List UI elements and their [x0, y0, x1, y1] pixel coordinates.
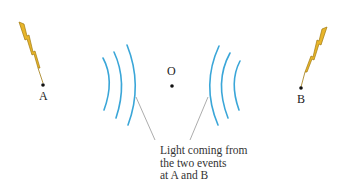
- observer-point: [170, 84, 174, 88]
- caption-line-3: at A and B: [160, 169, 248, 182]
- caption-line-1: Light coming from: [160, 144, 248, 157]
- wavefronts-from-b: [210, 46, 240, 125]
- event-a-label: A: [39, 90, 48, 102]
- event-a-point: [41, 83, 45, 87]
- observer-label: O: [167, 65, 176, 77]
- caption: Light coming fromthe two eventsat A and …: [160, 144, 248, 182]
- leader-line-left: [136, 97, 155, 140]
- event-b-point: [299, 86, 303, 90]
- figure-light-from-two-events: A B O Light coming fromthe two eventsat …: [0, 0, 341, 186]
- wavefronts-from-a: [103, 45, 135, 125]
- leader-line-right: [190, 97, 208, 140]
- lightning-bolt-icon: [19, 22, 43, 83]
- lightning-bolt-icon: [301, 27, 327, 87]
- event-b-label: B: [297, 93, 305, 105]
- caption-line-2: the two events: [160, 157, 248, 170]
